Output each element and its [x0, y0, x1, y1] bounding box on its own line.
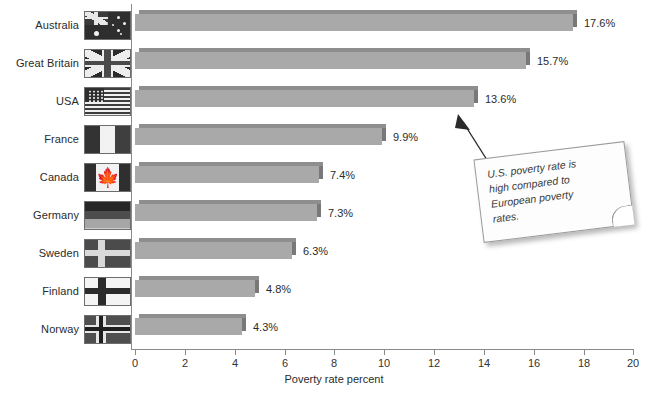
category-label: France [44, 133, 84, 145]
category-row-canada: Canada 🍁 [0, 158, 131, 196]
category-row-great-britain: Great Britain [0, 44, 131, 82]
flag-finland-icon [84, 277, 131, 306]
flag-australia-icon [84, 11, 131, 40]
x-tick [584, 350, 585, 355]
x-tick [434, 350, 435, 355]
bar-value-label: 4.8% [266, 283, 291, 295]
bar-value-label: 7.3% [328, 207, 353, 219]
bar-value-label: 4.3% [253, 321, 278, 333]
flag-sweden-icon [84, 239, 131, 268]
category-row-sweden: Sweden [0, 234, 131, 272]
bar-value-label: 13.6% [485, 93, 516, 105]
category-row-germany: Germany [0, 196, 131, 234]
flag-france-icon [84, 125, 131, 154]
bar-germany [135, 204, 317, 221]
x-tick [135, 350, 136, 355]
bar-value-label: 17.6% [584, 17, 615, 29]
bar-value-label: 7.4% [330, 169, 355, 181]
bar-canada [135, 166, 319, 183]
x-tick-label: 2 [182, 357, 188, 369]
x-tick-label: 18 [578, 357, 590, 369]
flag-canada-icon: 🍁 [84, 163, 131, 192]
bar-finland [135, 280, 255, 297]
flag-germany-icon [84, 201, 131, 230]
flag-great-britain-icon [84, 49, 131, 78]
bar-australia [135, 14, 573, 31]
x-axis-title: Poverty rate percent [284, 373, 383, 385]
category-label: Australia [35, 19, 84, 31]
category-label: Great Britain [16, 57, 84, 69]
bar-value-label: 15.7% [537, 55, 568, 67]
category-label: Sweden [39, 247, 84, 259]
bar-france [135, 128, 382, 145]
flag-norway-icon [84, 315, 131, 344]
annotation-callout: U.S. poverty rate is high compared to Eu… [473, 141, 634, 243]
category-row-finland: Finland [0, 272, 131, 310]
category-label: Norway [41, 323, 84, 335]
x-tick-label: 16 [528, 357, 540, 369]
x-tick-label: 0 [132, 357, 138, 369]
x-tick [534, 350, 535, 355]
x-tick-label: 12 [428, 357, 440, 369]
x-tick [384, 350, 385, 355]
category-label: USA [56, 95, 84, 107]
poverty-rate-bar-chart: Australia Great Britain USA [0, 0, 650, 393]
x-tick-label: 6 [282, 357, 288, 369]
bar-usa [135, 90, 474, 107]
x-tick [285, 350, 286, 355]
x-axis-line [131, 349, 634, 350]
y-axis-line [131, 4, 132, 349]
bar-value-label: 9.9% [393, 131, 418, 143]
x-tick-label: 20 [627, 357, 639, 369]
x-tick [185, 350, 186, 355]
category-row-norway: Norway [0, 310, 131, 348]
category-label: Canada [40, 171, 84, 183]
x-tick-label: 8 [331, 357, 337, 369]
category-row-usa: USA [0, 82, 131, 120]
x-tick [633, 350, 634, 355]
x-tick-label: 4 [232, 357, 238, 369]
bar-sweden [135, 242, 292, 259]
bar-value-label: 6.3% [303, 245, 328, 257]
bar-norway [135, 318, 242, 335]
category-row-france: France [0, 120, 131, 158]
x-tick-label: 14 [478, 357, 490, 369]
x-tick [334, 350, 335, 355]
bar-great-britain [135, 52, 526, 69]
x-tick [235, 350, 236, 355]
category-row-australia: Australia [0, 6, 131, 44]
flag-usa-icon [84, 87, 131, 116]
category-label: Germany [33, 209, 84, 221]
category-label: Finland [42, 285, 84, 297]
x-tick [484, 350, 485, 355]
x-tick-label: 10 [378, 357, 390, 369]
